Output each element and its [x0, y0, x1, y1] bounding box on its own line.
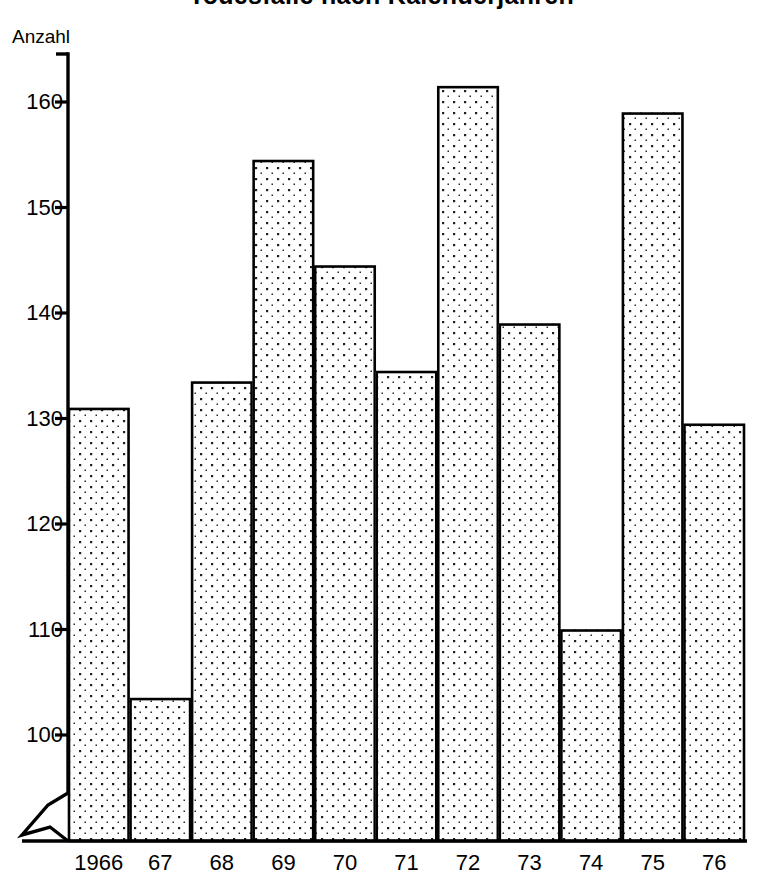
bar-fill	[314, 266, 376, 841]
bar-fill	[253, 160, 315, 841]
bar-fill	[376, 371, 438, 841]
x-axis-tick-label: 74	[560, 849, 622, 877]
x-axis-tick-labels: 196667686970717273747576	[0, 849, 763, 880]
x-axis-tick-label: 73	[499, 849, 561, 877]
bar-fill	[683, 424, 745, 841]
x-axis-tick-label: 1966	[68, 849, 130, 877]
bar-fill	[560, 630, 622, 842]
x-axis-tick-label: 68	[191, 849, 253, 877]
bar-fill	[622, 113, 684, 841]
x-axis-tick-label: 67	[130, 849, 192, 877]
bar-fill	[130, 698, 192, 841]
plot-area	[0, 0, 763, 880]
bar-fill	[191, 382, 253, 841]
x-axis-tick-label: 69	[253, 849, 315, 877]
y-axis-tick-label: 150	[7, 195, 63, 221]
bars-group	[68, 86, 745, 841]
y-axis-tick-label: 120	[7, 511, 63, 537]
x-axis-tick-label: 75	[622, 849, 684, 877]
x-axis-tick-label: 70	[314, 849, 376, 877]
x-axis-tick-label: 76	[683, 849, 745, 877]
y-axis-tick-label: 110	[7, 617, 63, 643]
bar-fill	[499, 324, 561, 841]
bar-fill	[437, 86, 499, 841]
y-axis-tick-label: 130	[7, 406, 63, 432]
bar-chart: Todesfälle nach Kalenderjahren Anzahl 16…	[0, 0, 763, 880]
y-axis-tick-labels: 160150140130120110100	[0, 0, 63, 880]
bar-fill	[68, 408, 130, 841]
x-axis-tick-label: 71	[376, 849, 438, 877]
y-axis-tick-label: 160	[7, 89, 63, 115]
y-axis-tick-label: 100	[7, 722, 63, 748]
x-axis-tick-label: 72	[437, 849, 499, 877]
y-axis-tick-label: 140	[7, 300, 63, 326]
